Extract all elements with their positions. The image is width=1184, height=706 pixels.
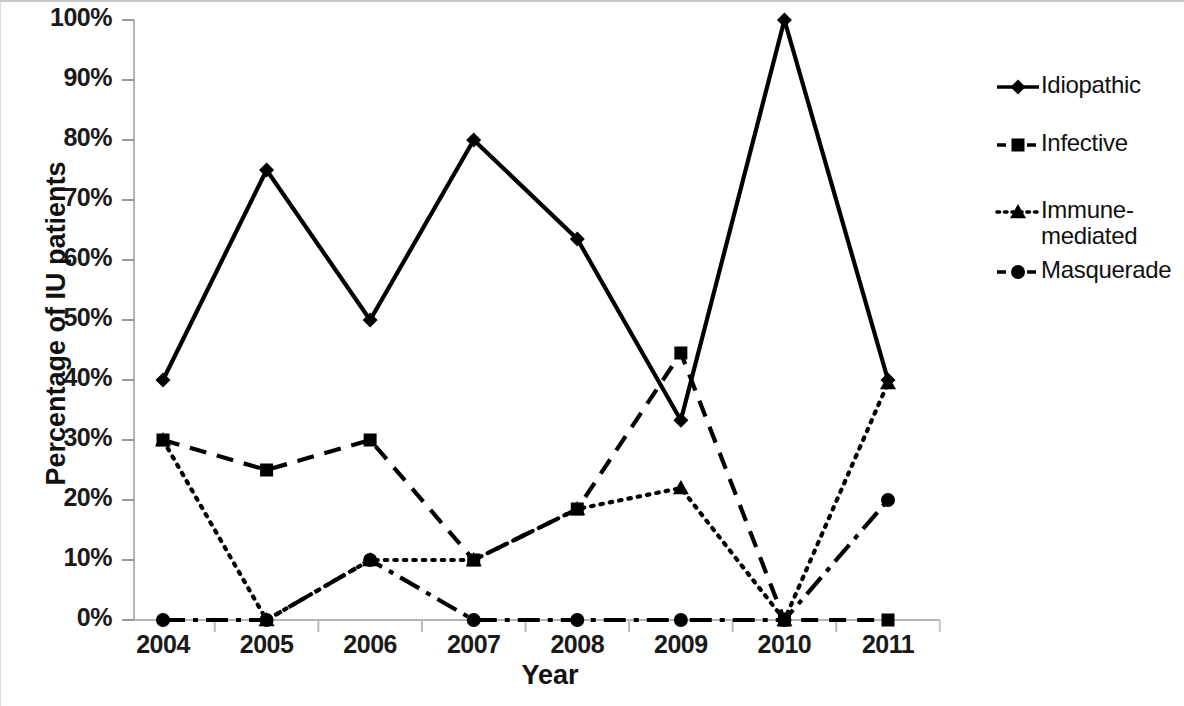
x-tick-label: 2004 <box>103 630 223 659</box>
x-tick-label: 2007 <box>414 630 534 659</box>
legend-label: Masquerade <box>1041 257 1171 283</box>
diamond-solid-line-icon <box>995 74 1041 100</box>
y-tick-label: 10% <box>0 543 112 572</box>
legend-item-idiopathic[interactable]: Idiopathic <box>995 72 1141 100</box>
circle-marker <box>1011 265 1025 279</box>
series-immune-mediated <box>155 375 896 626</box>
legend-label: Idiopathic <box>1041 72 1141 98</box>
x-tick-label: 2009 <box>621 630 741 659</box>
series-line <box>163 20 888 420</box>
axis-lines <box>122 20 940 632</box>
circle-marker <box>467 613 481 627</box>
x-tick-label: 2011 <box>828 630 948 659</box>
x-tick-label: 2010 <box>724 630 844 659</box>
diamond-marker <box>1011 80 1026 95</box>
square-marker <box>364 434 377 447</box>
series-line <box>163 353 888 620</box>
circle-marker <box>881 493 895 507</box>
legend-label: Infective <box>1041 130 1128 156</box>
x-tick-label: 2008 <box>517 630 637 659</box>
square-marker <box>1012 139 1025 152</box>
triangle-marker <box>880 375 896 389</box>
circle-marker <box>674 613 688 627</box>
x-tick-label: 2005 <box>207 630 327 659</box>
square-marker <box>674 347 687 360</box>
line-chart-canvas <box>0 0 1184 706</box>
series-masquerade <box>156 493 895 627</box>
y-tick-label: 100% <box>0 3 112 32</box>
y-tick-label: 20% <box>0 483 112 512</box>
series-line <box>163 383 888 620</box>
x-axis-title: Year <box>400 660 700 691</box>
y-axis-title: Percentage of IU patients <box>41 166 72 486</box>
y-axis-ticks <box>122 20 134 620</box>
circle-marker <box>363 553 377 567</box>
legend-label: Immune- mediated <box>1041 197 1137 249</box>
x-tick-label: 2006 <box>310 630 430 659</box>
circle-marker <box>570 613 584 627</box>
series-idiopathic <box>156 13 896 428</box>
diamond-marker <box>156 373 171 388</box>
y-tick-label: 0% <box>0 603 112 632</box>
circle-marker <box>260 613 274 627</box>
legend-item-infective[interactable]: Infective <box>995 130 1128 158</box>
y-tick-label: 80% <box>0 123 112 152</box>
series-infective <box>157 347 895 627</box>
data-series-group <box>155 13 896 628</box>
legend-item-masquerade[interactable]: Masquerade <box>995 257 1171 285</box>
legend-item-immune-mediated[interactable]: Immune- mediated <box>995 197 1137 249</box>
diamond-marker <box>777 13 792 28</box>
circle-marker <box>777 613 791 627</box>
square-marker <box>260 464 273 477</box>
chart-figure: 0%10%20%30%40%50%60%70%80%90%100% 200420… <box>0 0 1184 706</box>
square-dashed-line-icon <box>995 132 1041 158</box>
series-line <box>163 500 888 620</box>
square-marker <box>882 614 895 627</box>
circle-marker <box>156 613 170 627</box>
y-tick-label: 90% <box>0 63 112 92</box>
triangle-dotted-line-icon <box>995 199 1041 225</box>
circle-dashdot-line-icon <box>995 259 1041 285</box>
